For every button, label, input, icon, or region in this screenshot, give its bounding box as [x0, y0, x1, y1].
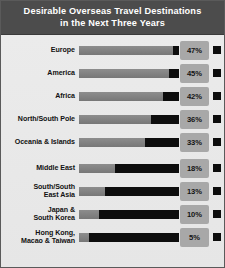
- chart-title-line-2: in the Next Three Years: [60, 17, 165, 29]
- bar-value-label: 47%: [180, 41, 209, 60]
- bar-remainder-segment: [105, 187, 179, 196]
- bar-row-label: Europe: [1, 46, 79, 54]
- bar-remainder-segment: [173, 46, 179, 55]
- bar-remainder-segment: [99, 210, 179, 219]
- bar-track: 18%: [79, 158, 224, 178]
- bar-row-label: Middle East: [1, 164, 79, 172]
- bar-row: South/South East Asia13%: [1, 181, 224, 201]
- bar-row-label: Japan & South Korea: [1, 206, 79, 222]
- bar-value-label: 13%: [180, 182, 209, 201]
- bar-value-segment: [79, 115, 151, 124]
- bar-row-label: America: [1, 69, 79, 77]
- bar-remainder-segment: [145, 138, 179, 147]
- bar-value-segment: [79, 233, 89, 242]
- bar-value-segment: [79, 138, 145, 147]
- bar-track: 47%: [79, 40, 224, 60]
- row-end-marker: [213, 69, 221, 77]
- bar-row: North/South Pole36%: [1, 109, 224, 129]
- row-end-marker: [213, 115, 221, 123]
- row-end-marker: [213, 210, 221, 218]
- chart-title-line-1: Desirable Overseas Travel Destinations: [24, 5, 202, 17]
- bar-strip: [79, 187, 179, 196]
- bar-value-label: 42%: [180, 87, 209, 106]
- bar-track: 5%: [79, 227, 224, 247]
- bar-value-segment: [79, 46, 173, 55]
- bar-value-label: 33%: [180, 133, 209, 152]
- row-end-marker: [213, 187, 221, 195]
- bar-strip: [79, 46, 179, 55]
- bar-value-segment: [79, 210, 99, 219]
- bar-row: Africa42%: [1, 86, 224, 106]
- bar-value-segment: [79, 164, 115, 173]
- row-end-marker: [213, 138, 221, 146]
- bar-value-label: 18%: [180, 159, 209, 178]
- bar-strip: [79, 92, 179, 101]
- bar-row-label: South/South East Asia: [1, 183, 79, 199]
- bar-remainder-segment: [89, 233, 179, 242]
- bar-row: Oceania & Islands33%: [1, 132, 224, 152]
- bar-row-label: Africa: [1, 92, 79, 100]
- bar-row-label: Hong Kong, Macao & Taiwan: [1, 229, 79, 245]
- bar-remainder-segment: [163, 92, 179, 101]
- bar-remainder-segment: [169, 69, 179, 78]
- bar-remainder-segment: [115, 164, 179, 173]
- chart-header: Desirable Overseas Travel Destinations i…: [1, 1, 224, 35]
- bar-strip: [79, 115, 179, 124]
- bar-track: 33%: [79, 132, 224, 152]
- row-end-marker: [213, 233, 221, 241]
- bar-strip: [79, 69, 179, 78]
- row-end-marker: [213, 92, 221, 100]
- bar-value-label: 45%: [180, 64, 209, 83]
- bar-track: 10%: [79, 204, 224, 224]
- bar-track: 45%: [79, 63, 224, 83]
- row-end-marker: [213, 46, 221, 54]
- bar-row-label: Oceania & Islands: [1, 138, 79, 146]
- bar-value-segment: [79, 92, 163, 101]
- bar-value-segment: [79, 187, 105, 196]
- bar-value-label: 5%: [180, 228, 209, 247]
- bar-strip: [79, 138, 179, 147]
- chart-panel: Desirable Overseas Travel Destinations i…: [0, 0, 225, 268]
- bar-strip: [79, 164, 179, 173]
- bar-value-label: 36%: [180, 110, 209, 129]
- bar-row: Japan & South Korea10%: [1, 204, 224, 224]
- bar-track: 36%: [79, 109, 224, 129]
- bar-strip: [79, 233, 179, 242]
- bar-row: America45%: [1, 63, 224, 83]
- bar-strip: [79, 210, 179, 219]
- bar-remainder-segment: [151, 115, 179, 124]
- bar-row: Hong Kong, Macao & Taiwan5%: [1, 227, 224, 247]
- row-end-marker: [213, 164, 221, 172]
- bar-value-label: 10%: [180, 205, 209, 224]
- bar-row-label: North/South Pole: [1, 115, 79, 123]
- chart-plot-area: Europe47%America45%Africa42%North/South …: [1, 35, 224, 267]
- bar-value-segment: [79, 69, 169, 78]
- bar-row: Middle East18%: [1, 158, 224, 178]
- bar-track: 42%: [79, 86, 224, 106]
- bar-row: Europe47%: [1, 40, 224, 60]
- bar-track: 13%: [79, 181, 224, 201]
